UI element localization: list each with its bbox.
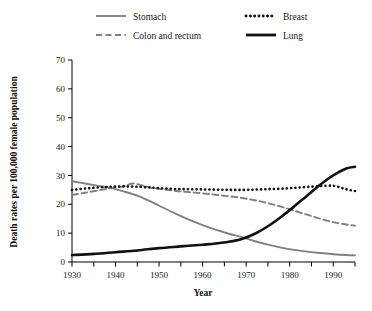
x-tick-label: 1990 xyxy=(324,270,343,280)
y-tick-label: 20 xyxy=(56,199,66,209)
x-tick-label: 1950 xyxy=(150,270,169,280)
y-axis-tick-labels: 010203040506070 xyxy=(56,55,66,267)
y-tick-label: 0 xyxy=(61,257,66,267)
line-chart: Stomach Colon and rectum Breast Lung 010… xyxy=(0,0,372,311)
chart-tick-marks xyxy=(68,60,355,267)
y-tick-label: 10 xyxy=(56,228,66,238)
x-axis-tick-labels: 1930194019501960197019801990 xyxy=(63,270,343,280)
legend-item-breast: Breast xyxy=(246,12,308,22)
chart-series xyxy=(72,167,355,256)
x-tick-label: 1940 xyxy=(107,270,126,280)
legend-label-lung: Lung xyxy=(283,31,303,41)
legend-item-stomach: Stomach xyxy=(96,12,166,22)
chart-axes xyxy=(72,60,355,262)
legend-label-colon-and-rectum: Colon and rectum xyxy=(133,31,202,41)
x-tick-label: 1960 xyxy=(194,270,213,280)
x-axis-title: Year xyxy=(194,288,214,298)
legend-item-lung: Lung xyxy=(246,31,303,41)
legend-item-colon-and-rectum: Colon and rectum xyxy=(96,31,202,41)
y-tick-label: 70 xyxy=(56,55,66,65)
y-tick-label: 30 xyxy=(56,171,66,181)
chart-legend: Stomach Colon and rectum Breast Lung xyxy=(96,12,308,41)
y-tick-label: 50 xyxy=(56,113,66,123)
chart-figure: Stomach Colon and rectum Breast Lung 010… xyxy=(0,0,372,311)
x-tick-label: 1930 xyxy=(63,270,82,280)
y-tick-label: 60 xyxy=(56,84,66,94)
x-tick-label: 1980 xyxy=(281,270,300,280)
legend-label-stomach: Stomach xyxy=(133,12,166,22)
series-line-lung xyxy=(72,167,355,255)
y-axis-title: Death rates per 100,000 female populatio… xyxy=(9,76,19,248)
y-tick-label: 40 xyxy=(56,142,66,152)
x-tick-label: 1970 xyxy=(237,270,256,280)
legend-label-breast: Breast xyxy=(283,12,308,22)
